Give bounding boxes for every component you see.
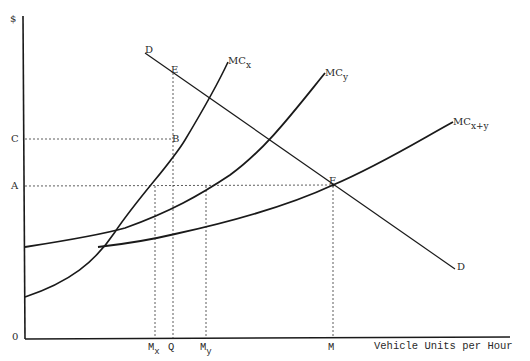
point-B-label: B [172, 134, 179, 144]
point-F-label: F [329, 176, 336, 186]
mc-xy-label-main: MC [453, 116, 471, 127]
mc-x-curve [25, 62, 228, 297]
mc-x-label-sub: x [246, 60, 251, 70]
origin-label: 0 [12, 332, 18, 342]
x-tick-Mx-sub: x [154, 347, 159, 357]
mc-y-curve [25, 73, 325, 247]
y-axis-label: $ [10, 14, 16, 24]
mc-x-label: MCx [228, 56, 251, 66]
y-tick-A: A [11, 181, 18, 191]
x-tick-My-sub: y [206, 347, 211, 357]
mc-xy-label-sub: x+y [471, 121, 489, 131]
demand-label-end: D [457, 262, 465, 272]
mc-y-label-main: MC [325, 67, 343, 78]
x-tick-Mx: Mx [148, 342, 160, 353]
guide-A-F [25, 185, 333, 186]
point-E-label: E [171, 65, 178, 75]
x-axis-label: Vehicle Units per Hour [374, 341, 513, 352]
diagram-canvas [0, 0, 530, 361]
demand-label-start: D [145, 45, 153, 55]
mc-x-label-main: MC [228, 55, 246, 66]
diagram: $ 0 Vehicle Units per Hour C A Mx Q My M… [0, 0, 530, 361]
mc-y-label-sub: y [343, 72, 348, 82]
mc-y-label: MCy [325, 68, 348, 78]
mc-xy-label: MCx+y [453, 117, 489, 127]
demand-curve [145, 53, 455, 269]
x-tick-Q: Q [168, 342, 174, 353]
y-axis [23, 16, 25, 339]
x-axis [25, 337, 510, 339]
x-tick-M: M [328, 342, 334, 353]
x-tick-My: My [200, 342, 212, 353]
y-tick-C: C [11, 134, 19, 144]
